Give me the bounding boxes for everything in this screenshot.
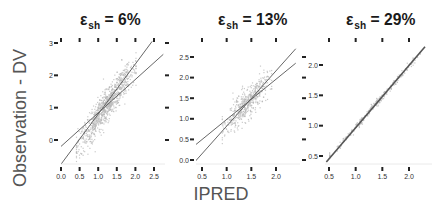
top-tick	[250, 38, 252, 42]
top-tick	[275, 38, 277, 42]
x-tick-label: 1.5	[246, 173, 256, 180]
x-tick	[408, 167, 410, 171]
top-tick	[79, 38, 81, 42]
right-tick	[302, 56, 306, 58]
right-tick	[302, 138, 306, 140]
y-tick-label: 2	[49, 72, 53, 79]
x-tick	[79, 167, 81, 171]
x-tick-label: 2.5	[149, 173, 159, 180]
y-tick	[319, 64, 323, 66]
scatter-plots: 0.00.51.01.52.02.501230.51.01.52.00.00.5…	[0, 0, 446, 215]
y-tick	[190, 118, 194, 120]
right-tick	[165, 107, 169, 109]
x-tick	[116, 167, 118, 171]
y-tick	[319, 155, 323, 157]
x-tick	[328, 167, 330, 171]
x-tick-label: 2.0	[271, 173, 281, 180]
y-tick	[190, 159, 194, 161]
y-tick-label: 0.5	[179, 136, 189, 143]
x-tick	[275, 167, 277, 171]
y-tick-label: 1.5	[308, 92, 318, 99]
y-tick	[54, 139, 58, 141]
x-tick-label: 2.0	[131, 173, 141, 180]
y-tick-label: 2.0	[308, 62, 318, 69]
x-tick-label: 0.5	[324, 173, 334, 180]
x-tick-label: 0.0	[56, 173, 66, 180]
y-tick-label: 0.0	[179, 157, 189, 164]
regression-line	[195, 63, 296, 145]
identity-line	[326, 47, 425, 162]
x-tick	[134, 167, 136, 171]
y-tick	[54, 107, 58, 109]
top-tick	[201, 38, 203, 42]
panel-3: 0.51.01.52.00.51.01.52.0	[308, 38, 432, 180]
x-tick-label: 1.5	[112, 173, 122, 180]
x-tick-label: 0.5	[197, 173, 207, 180]
y-tick-label: 0.5	[308, 153, 318, 160]
top-tick	[134, 38, 136, 42]
y-tick	[319, 125, 323, 127]
y-tick-label: 1.0	[179, 115, 189, 122]
panel-1: 0.00.51.01.52.02.50123	[49, 38, 169, 180]
regression-line	[59, 54, 163, 148]
x-tick	[250, 167, 252, 171]
right-tick	[302, 118, 306, 120]
y-tick	[190, 77, 194, 79]
y-tick	[190, 138, 194, 140]
x-tick-label: 2.0	[404, 173, 414, 180]
top-tick	[97, 38, 99, 42]
top-tick	[153, 38, 155, 42]
identity-steep-line	[61, 41, 152, 164]
top-tick	[226, 38, 228, 42]
figure: εsh = 6% εsh = 13% εsh = 29% Observation…	[0, 0, 446, 215]
identity-steep-line	[195, 49, 296, 162]
data-points	[76, 52, 137, 168]
y-tick-label: 3	[49, 40, 53, 47]
top-tick	[328, 38, 330, 42]
top-tick	[116, 38, 118, 42]
x-tick	[381, 167, 383, 171]
x-tick	[97, 167, 99, 171]
right-tick	[165, 42, 169, 44]
top-tick	[408, 38, 410, 42]
top-tick	[355, 38, 357, 42]
y-tick	[190, 56, 194, 58]
y-tick	[54, 42, 58, 44]
x-tick	[153, 167, 155, 171]
x-tick-label: 1.0	[351, 173, 361, 180]
data-points	[222, 66, 273, 145]
y-tick	[54, 74, 58, 76]
y-tick-label: 0	[49, 137, 53, 144]
right-tick	[165, 74, 169, 76]
x-tick	[60, 167, 62, 171]
x-tick	[355, 167, 357, 171]
y-tick-label: 2.0	[179, 74, 189, 81]
y-tick-label: 1.5	[179, 95, 189, 102]
x-tick-label: 0.5	[75, 173, 85, 180]
x-tick-label: 1.0	[222, 173, 232, 180]
right-tick	[165, 139, 169, 141]
y-tick-label: 2.5	[179, 54, 189, 61]
y-tick	[319, 94, 323, 96]
top-tick	[60, 38, 62, 42]
right-tick	[302, 97, 306, 99]
y-tick	[190, 97, 194, 99]
top-tick	[381, 38, 383, 42]
right-tick	[302, 77, 306, 79]
right-tick	[302, 159, 306, 161]
y-tick-label: 1	[49, 104, 53, 111]
x-tick	[226, 167, 228, 171]
x-tick	[201, 167, 203, 171]
panel-2: 0.51.01.52.00.00.51.01.52.02.5	[179, 38, 306, 180]
x-tick-label: 1.0	[93, 173, 103, 180]
y-tick-label: 1.0	[308, 122, 318, 129]
x-tick-label: 1.5	[377, 173, 387, 180]
